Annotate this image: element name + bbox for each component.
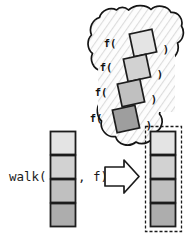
output-cell-0 bbox=[151, 132, 176, 155]
output-cell-2 bbox=[151, 180, 176, 203]
input-list bbox=[51, 132, 76, 227]
right-arrow-icon bbox=[105, 160, 139, 193]
cloud-call-close-2: ) bbox=[151, 93, 157, 105]
cloud-call-open-2: f( bbox=[95, 86, 108, 98]
output-list bbox=[146, 127, 182, 232]
diagram-canvas: f( ) f( ) f( ) f( ) walk( , f) bbox=[0, 0, 185, 236]
cloud-call-open-1: f( bbox=[100, 61, 113, 73]
cloud-call-close-1: ) bbox=[157, 68, 163, 80]
input-cell-0 bbox=[51, 132, 76, 155]
cloud-square-2 bbox=[117, 79, 144, 106]
cloud-square-0 bbox=[129, 29, 156, 56]
walk-diagram: f( ) f( ) f( ) f( ) walk( , f) bbox=[0, 0, 185, 236]
cloud-square-1 bbox=[123, 54, 150, 81]
cloud-call-close-3: ) bbox=[146, 119, 152, 131]
walk-call-prefix: walk( bbox=[9, 169, 47, 184]
input-cell-1 bbox=[51, 156, 76, 179]
cloud-call-open-3: f( bbox=[90, 112, 103, 124]
input-cell-3 bbox=[51, 204, 76, 227]
cloud-square-3 bbox=[112, 105, 139, 132]
output-cell-3 bbox=[151, 204, 176, 227]
walk-call-suffix: , f) bbox=[78, 169, 108, 184]
cloud-call-close-0: ) bbox=[163, 43, 169, 55]
input-cell-2 bbox=[51, 180, 76, 203]
output-cell-1 bbox=[151, 156, 176, 179]
cloud-call-open-0: f( bbox=[104, 37, 117, 49]
function-cloud-group: f( ) f( ) f( ) f( ) bbox=[88, 6, 183, 146]
